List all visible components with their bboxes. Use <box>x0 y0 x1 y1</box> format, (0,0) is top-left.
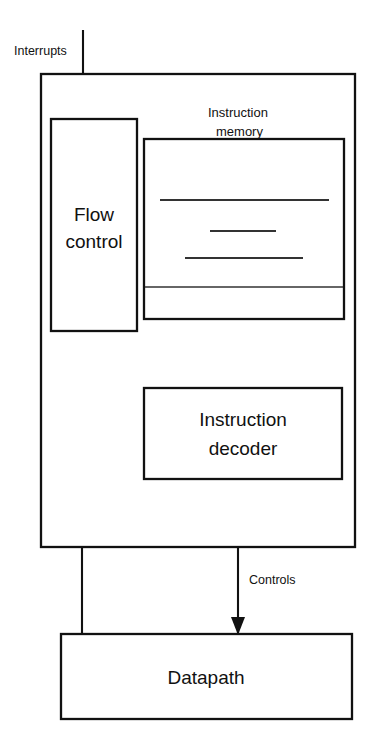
block-flow-control[interactable]: Flow control <box>51 119 137 331</box>
instruction-memory-label-line2: memory <box>216 124 263 139</box>
block-instruction-decoder[interactable]: Instruction decoder <box>144 388 342 479</box>
block-diagram: Interrupts Address Instruction Controls … <box>0 0 370 752</box>
arrowhead-controls <box>231 617 245 635</box>
flow-control-label-line2: control <box>65 231 122 252</box>
datapath-label: Datapath <box>167 667 244 688</box>
block-instruction-memory[interactable] <box>144 139 344 319</box>
instruction-decoder-label-line2: decoder <box>209 438 278 459</box>
label-interrupts: Interrupts <box>14 44 67 58</box>
instruction-decoder-label-line1: Instruction <box>199 409 287 430</box>
label-controls: Controls <box>249 573 296 587</box>
block-datapath[interactable]: Datapath <box>61 634 352 719</box>
flow-control-label-line1: Flow <box>74 204 114 225</box>
diagram-canvas: Interrupts Address Instruction Controls … <box>0 0 370 752</box>
instruction-memory-box[interactable] <box>144 139 344 319</box>
instruction-memory-label-line1: Instruction <box>208 105 268 120</box>
instruction-decoder-box[interactable] <box>144 388 342 479</box>
